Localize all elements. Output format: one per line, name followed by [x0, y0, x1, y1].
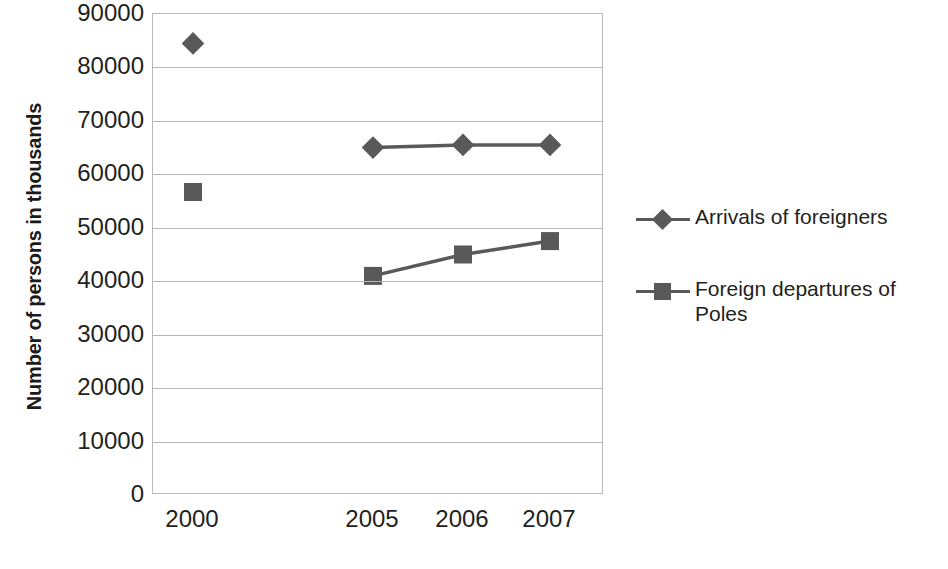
- gridline: [153, 121, 602, 122]
- legend-label: Arrivals of foreigners: [695, 205, 888, 230]
- gridline: [153, 388, 602, 389]
- x-axis-tick-labels: 2000200520062007: [152, 505, 603, 555]
- legend-item[interactable]: Arrivals of foreigners: [636, 205, 936, 231]
- data-point-square-marker: [364, 267, 382, 285]
- gridline: [153, 228, 602, 229]
- plot-area: [152, 13, 603, 494]
- legend-item[interactable]: Foreign departures of Poles: [636, 277, 936, 327]
- data-point-diamond-marker: [452, 134, 475, 157]
- y-axis-tick-label: 80000: [36, 52, 144, 80]
- data-point-diamond-marker: [362, 136, 385, 159]
- y-axis-tick-label: 60000: [36, 159, 144, 187]
- y-axis-tick-label: 90000: [36, 0, 144, 27]
- gridline: [153, 174, 602, 175]
- x-axis-tick-label: 2007: [522, 505, 575, 533]
- y-axis-tick-label: 20000: [36, 373, 144, 401]
- chart-legend: Arrivals of foreignersForeign departures…: [636, 205, 936, 373]
- gridline: [153, 67, 602, 68]
- data-point-square-marker: [454, 246, 472, 264]
- data-point-square-marker: [184, 183, 202, 201]
- gridline: [153, 442, 602, 443]
- gridline: [153, 281, 602, 282]
- y-axis-tick-label: 50000: [36, 213, 144, 241]
- y-axis-tick-label: 40000: [36, 266, 144, 294]
- y-axis-tick-label: 10000: [36, 427, 144, 455]
- diamond-marker-icon: [652, 209, 673, 230]
- chart-container: Number of persons in thousands 900008000…: [0, 0, 948, 569]
- x-axis-tick-label: 2006: [435, 505, 488, 533]
- gridline: [153, 335, 602, 336]
- y-axis-tick-label: 30000: [36, 320, 144, 348]
- data-point-diamond-marker: [539, 134, 562, 157]
- plot-svg: [153, 14, 604, 495]
- square-marker-icon: [654, 283, 671, 300]
- x-axis-tick-label: 2000: [165, 505, 218, 533]
- x-axis-tick-label: 2005: [345, 505, 398, 533]
- data-point-diamond-marker: [182, 32, 205, 55]
- legend-key: [636, 207, 690, 231]
- legend-label: Foreign departures of Poles: [695, 277, 930, 327]
- y-axis-tick-labels: 9000080000700006000050000400003000020000…: [36, 0, 144, 569]
- data-point-square-marker: [541, 232, 559, 250]
- legend-key: [636, 279, 690, 303]
- y-axis-tick-label: 0: [36, 480, 144, 508]
- y-axis-tick-label: 70000: [36, 106, 144, 134]
